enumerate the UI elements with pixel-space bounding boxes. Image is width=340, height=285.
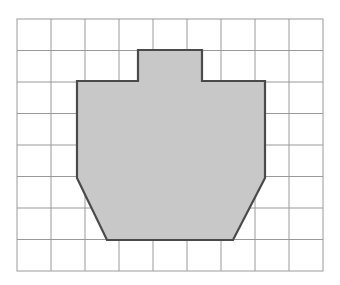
- grid-shape-figure: [0, 0, 340, 285]
- figure-container: [0, 0, 340, 285]
